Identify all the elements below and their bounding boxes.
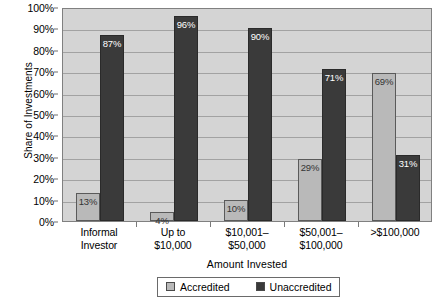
- y-tick-label: 60%: [33, 88, 54, 100]
- bar-accredited: 69%: [372, 73, 396, 221]
- y-tick-label: 80%: [33, 45, 54, 57]
- bar-unaccredited: 71%: [322, 69, 346, 221]
- x-axis-title: Amount Invested: [62, 258, 432, 270]
- y-tick-mark: [54, 72, 58, 73]
- bar-value-label: 90%: [249, 31, 271, 42]
- y-tick-label: 30%: [33, 152, 54, 164]
- x-axis-category-line: $10,000: [136, 239, 210, 252]
- bar-accredited: 13%: [76, 193, 100, 221]
- bar-value-label: 13%: [77, 196, 99, 207]
- bar-value-label: 10%: [225, 203, 247, 214]
- x-axis-category-label: Up to$10,000: [136, 226, 210, 252]
- x-axis-category-line: $100,000: [284, 239, 358, 252]
- y-tick-mark: [54, 179, 58, 180]
- bar-accredited: 10%: [224, 200, 248, 221]
- x-axis-category-label: $50,001–$100,000: [284, 226, 358, 252]
- bar-chart: Share of Investments 0%10%20%30%40%50%60…: [0, 0, 441, 307]
- bar-value-label: 96%: [175, 19, 197, 30]
- x-axis-category-label: >$100,000: [358, 226, 432, 239]
- accredited-swatch-icon: [166, 282, 175, 291]
- y-tick-label: 100%: [28, 2, 54, 14]
- bars-layer: 13%87%4%96%10%90%29%71%69%31%: [63, 9, 431, 221]
- y-tick-label: 50%: [33, 109, 54, 121]
- y-tick-label: 70%: [33, 66, 54, 78]
- y-tick-label: 10%: [33, 195, 54, 207]
- bar-value-label: 69%: [373, 76, 395, 87]
- bar-unaccredited: 90%: [248, 28, 272, 221]
- x-axis-category-line: Investor: [62, 239, 136, 252]
- y-tick-mark: [54, 115, 58, 116]
- bar-unaccredited: 31%: [396, 155, 420, 221]
- y-tick-label: 90%: [33, 23, 54, 35]
- bar-unaccredited: 87%: [100, 35, 124, 221]
- bar-unaccredited: 96%: [174, 16, 198, 221]
- y-tick-mark: [54, 136, 58, 137]
- y-tick-label: 20%: [33, 173, 54, 185]
- y-tick-mark: [54, 222, 58, 223]
- bar-value-label: 87%: [101, 38, 123, 49]
- bar-value-label: 31%: [397, 158, 419, 169]
- legend-item-unaccredited: Unaccredited: [256, 281, 332, 293]
- legend-label-unaccredited: Unaccredited: [270, 281, 332, 293]
- y-tick-mark: [54, 93, 58, 94]
- chart-legend: Accredited Unaccredited: [157, 277, 340, 297]
- bar-value-label: 71%: [323, 72, 345, 83]
- y-tick-mark: [54, 50, 58, 51]
- x-axis-category-label: $10,001–$50,000: [210, 226, 284, 252]
- x-axis-category-line: >$100,000: [358, 226, 432, 239]
- bar-value-label: 29%: [299, 162, 321, 173]
- x-axis-labels: InformalInvestorUp to$10,000$10,001–$50,…: [62, 226, 432, 256]
- legend-item-accredited: Accredited: [166, 281, 230, 293]
- bar-accredited: 29%: [298, 159, 322, 221]
- x-axis-category-line: Informal: [62, 226, 136, 239]
- bar-value-label: 4%: [151, 215, 173, 226]
- x-axis-category-line: Up to: [136, 226, 210, 239]
- y-tick-mark: [54, 29, 58, 30]
- unaccredited-swatch-icon: [256, 282, 265, 291]
- y-tick-mark: [54, 200, 58, 201]
- bar-accredited: 4%: [150, 212, 174, 221]
- legend-label-accredited: Accredited: [180, 281, 230, 293]
- plot-area: 13%87%4%96%10%90%29%71%69%31%: [62, 8, 432, 222]
- y-tick-mark: [54, 8, 58, 9]
- x-axis-category-line: $50,000: [210, 239, 284, 252]
- x-axis-category-line: $50,001–: [284, 226, 358, 239]
- y-tick-label: 40%: [33, 130, 54, 142]
- y-tick-mark: [54, 157, 58, 158]
- x-axis-category-label: InformalInvestor: [62, 226, 136, 252]
- x-axis-category-line: $10,001–: [210, 226, 284, 239]
- y-tick-label: 0%: [39, 216, 54, 228]
- y-axis-ticks: 0%10%20%30%40%50%60%70%80%90%100%: [20, 8, 58, 222]
